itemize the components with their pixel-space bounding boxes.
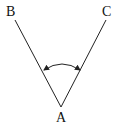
angle-arc-arrow xyxy=(44,64,80,70)
ray-ac xyxy=(61,20,106,107)
point-label-a: A xyxy=(56,111,66,125)
angle-diagram xyxy=(0,0,120,127)
ray-ab xyxy=(15,20,61,107)
point-label-c: C xyxy=(102,5,111,19)
point-label-b: B xyxy=(6,5,15,19)
